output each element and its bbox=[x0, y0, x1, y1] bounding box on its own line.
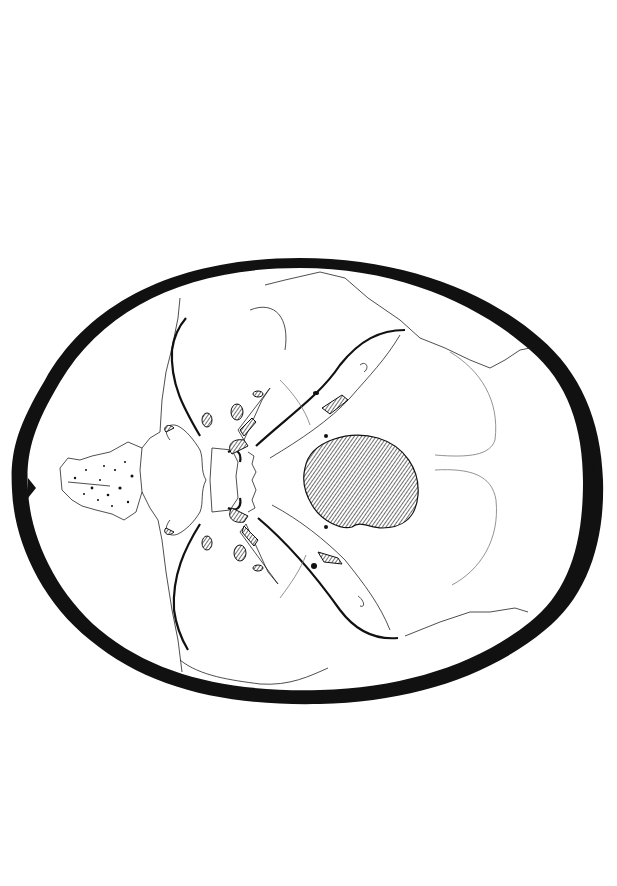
sella-turcica-shape bbox=[210, 448, 256, 512]
cribriform-plate-shape bbox=[60, 442, 142, 520]
foramen-ovale-shape bbox=[231, 404, 243, 420]
foramina bbox=[202, 388, 278, 584]
optic-foramen-shape bbox=[202, 413, 212, 427]
lesser-wings bbox=[165, 318, 206, 650]
foramen-magnum-shape bbox=[304, 435, 419, 528]
skull-base-diagram bbox=[0, 0, 617, 886]
